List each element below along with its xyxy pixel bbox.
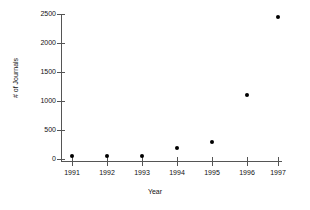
x-axis-label-1994: 1994 <box>157 169 197 177</box>
data-point <box>70 154 74 158</box>
x-axis-tick-1992 <box>107 157 108 166</box>
x-axis-label-1992: 1992 <box>87 169 127 177</box>
data-point <box>140 154 144 158</box>
x-axis-tick-1995 <box>212 157 213 166</box>
scatter-chart: 2500 2000 1500 1000 500 0 1991 1992 1993… <box>0 0 310 210</box>
x-axis-title: Year <box>0 188 310 196</box>
data-point <box>276 15 280 19</box>
x-axis-line <box>61 161 282 162</box>
x-axis-tick-1994 <box>177 157 178 166</box>
y-axis-label-0: 0 <box>52 155 56 163</box>
y-axis-tick-1000 <box>57 101 65 102</box>
y-axis-title: # of Journals <box>11 88 20 98</box>
y-axis-tick-500 <box>57 130 65 131</box>
data-point <box>245 93 249 97</box>
x-axis-label-1991: 1991 <box>52 169 92 177</box>
y-axis-tick-0 <box>57 159 65 160</box>
x-axis-label-1993: 1993 <box>122 169 162 177</box>
x-axis-tick-1993 <box>142 157 143 166</box>
x-axis-label-1997: 1997 <box>258 169 298 177</box>
x-axis-label-1995: 1995 <box>192 169 232 177</box>
y-axis-label-500: 500 <box>44 126 56 134</box>
data-point <box>175 146 179 150</box>
y-axis-tick-1500 <box>57 72 65 73</box>
x-axis-tick-1997 <box>278 157 279 166</box>
data-point <box>105 154 109 158</box>
y-axis-label-2500: 2500 <box>40 10 56 18</box>
data-point <box>210 140 214 144</box>
y-axis-tick-2000 <box>57 43 65 44</box>
x-axis-tick-1996 <box>247 157 248 166</box>
y-axis-label-2000: 2000 <box>40 39 56 47</box>
y-axis-label-1500: 1500 <box>40 68 56 76</box>
y-axis-label-1000: 1000 <box>40 97 56 105</box>
y-axis-line <box>61 14 62 161</box>
x-axis-tick-1991 <box>72 157 73 166</box>
y-axis-tick-2500 <box>57 14 65 15</box>
